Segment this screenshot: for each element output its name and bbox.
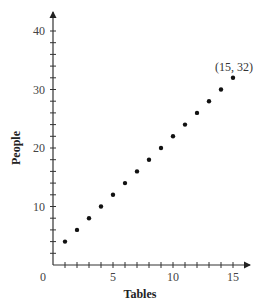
data-point: [171, 134, 175, 138]
x-tick-label: 5: [110, 270, 116, 284]
y-tick-label: 40: [33, 24, 45, 38]
ticks: [50, 31, 233, 268]
data-point: [123, 181, 127, 185]
axes: [53, 12, 250, 265]
y-tick-label: 20: [33, 141, 45, 155]
labels: 05101510203040: [33, 24, 239, 284]
x-tick-label: 0: [40, 270, 46, 284]
data-point: [111, 193, 115, 197]
data-points: [63, 76, 235, 244]
data-point: [183, 122, 187, 126]
x-axis-title: Tables: [124, 287, 157, 301]
data-point: [195, 111, 199, 115]
data-point: [135, 169, 139, 173]
data-point: [147, 158, 151, 162]
data-point: [87, 216, 91, 220]
data-point: [75, 228, 79, 232]
data-point: [63, 239, 67, 243]
point-annotation: (15, 32): [215, 60, 253, 74]
data-point: [159, 146, 163, 150]
data-point: [219, 87, 223, 91]
y-tick-label: 10: [33, 200, 45, 214]
x-tick-label: 10: [167, 270, 179, 284]
y-tick-label: 30: [33, 83, 45, 97]
data-point: [207, 99, 211, 103]
data-point: [231, 76, 235, 80]
data-point: [99, 204, 103, 208]
x-tick-label: 15: [227, 270, 239, 284]
scatter-chart: 05101510203040 Tables People (15, 32): [0, 0, 257, 306]
y-axis-title: People: [9, 130, 23, 165]
